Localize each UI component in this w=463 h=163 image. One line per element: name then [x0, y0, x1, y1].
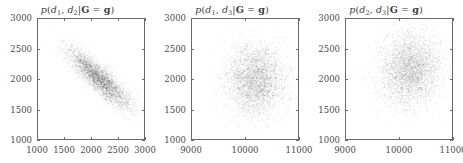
y-tick-mark	[450, 140, 453, 141]
y-axis-tick-label: 2500	[309, 44, 340, 54]
y-tick-mark	[450, 110, 453, 111]
density-cloud-d1-d3	[192, 19, 298, 139]
title-token-eq: =	[89, 4, 103, 15]
title-token-close: )	[110, 4, 114, 15]
x-tick-mark	[91, 18, 92, 21]
y-tick-mark	[142, 49, 145, 50]
y-axis-tick-label: 2000	[309, 74, 340, 84]
title-token-cond-rhs: g	[412, 4, 419, 15]
x-axis-tick-label: 1500	[53, 145, 75, 155]
y-axis-tick-label: 2500	[0, 44, 32, 54]
y-tick-mark	[142, 110, 145, 111]
x-tick-mark	[299, 18, 300, 21]
x-axis-tick-label: 11000	[439, 145, 463, 155]
y-axis-tick-label: 1000	[155, 135, 186, 145]
title-token-eq: =	[244, 4, 258, 15]
title-token-var1: d	[51, 4, 57, 15]
y-tick-mark	[142, 79, 145, 80]
x-axis-tick-label: 10000	[231, 145, 258, 155]
y-tick-mark	[37, 79, 40, 80]
title-token-var2: d	[67, 4, 73, 15]
x-tick-mark	[299, 137, 300, 140]
title-token-var2-sub: 3	[228, 9, 232, 17]
x-tick-mark	[37, 18, 38, 21]
y-axis-tick-label: 3000	[0, 13, 32, 23]
title-token-var1-sub: 1	[211, 9, 215, 17]
title-token-var1-sub: 1	[57, 9, 61, 17]
y-tick-mark	[191, 49, 194, 50]
y-tick-mark	[345, 79, 348, 80]
title-token-eq: =	[398, 4, 412, 15]
x-tick-mark	[37, 137, 38, 140]
x-axis-tick-label: 3000	[134, 145, 156, 155]
x-axis-tick-label: 9000	[334, 145, 356, 155]
x-axis-tick-label: 1000	[26, 145, 48, 155]
y-axis-tick-label: 3000	[155, 13, 186, 23]
x-axis-tick-label: 10000	[385, 145, 412, 155]
x-tick-mark	[245, 137, 246, 140]
x-axis-tick-label: 2500	[107, 145, 129, 155]
figure-three-panel-density-plots: p(d1, d2|G = g) 100015002000250030001000…	[0, 0, 463, 163]
panel-d1-d2: p(d1, d2|G = g) 100015002000250030001000…	[0, 0, 155, 163]
title-token-close: )	[265, 4, 269, 15]
x-tick-mark	[118, 18, 119, 21]
x-tick-mark	[245, 18, 246, 21]
y-tick-mark	[191, 110, 194, 111]
title-token-var2-sub: 2	[74, 9, 78, 17]
y-tick-mark	[191, 79, 194, 80]
panel-d2-d3: p(d2, d3|G = g) 100015002000250030009000…	[309, 0, 463, 163]
y-axis-tick-label: 2000	[155, 74, 186, 84]
y-tick-mark	[296, 140, 299, 141]
y-axis-tick-label: 1500	[0, 105, 32, 115]
y-axis-tick-label: 1500	[309, 105, 340, 115]
x-tick-mark	[118, 137, 119, 140]
y-tick-mark	[142, 140, 145, 141]
y-tick-mark	[191, 140, 194, 141]
title-token-var1-sub: 2	[365, 9, 369, 17]
x-tick-mark	[64, 18, 65, 21]
y-axis-tick-label: 1000	[0, 135, 32, 145]
x-tick-mark	[399, 18, 400, 21]
x-tick-mark	[345, 137, 346, 140]
title-token-var2-sub: 3	[382, 9, 386, 17]
y-tick-mark	[345, 110, 348, 111]
x-tick-mark	[453, 18, 454, 21]
plot-area-d2-d3	[345, 18, 453, 140]
x-tick-mark	[91, 137, 92, 140]
y-axis-tick-label: 1500	[155, 105, 186, 115]
y-tick-mark	[450, 79, 453, 80]
x-axis-tick-label: 9000	[180, 145, 202, 155]
panel-d1-d3: p(d1, d3|G = g) 100015002000250030009000…	[155, 0, 309, 163]
x-tick-mark	[145, 18, 146, 21]
x-tick-mark	[453, 137, 454, 140]
y-axis-tick-label: 2000	[0, 74, 32, 84]
y-tick-mark	[296, 110, 299, 111]
plot-area-d1-d3	[191, 18, 299, 140]
x-tick-mark	[191, 18, 192, 21]
density-cloud-d1-d2	[38, 19, 144, 139]
y-tick-mark	[345, 140, 348, 141]
y-tick-mark	[345, 49, 348, 50]
y-tick-mark	[37, 140, 40, 141]
x-tick-mark	[345, 18, 346, 21]
y-tick-mark	[37, 110, 40, 111]
plot-area-d1-d2	[37, 18, 145, 140]
x-axis-tick-label: 2000	[80, 145, 102, 155]
density-cloud-d2-d3	[346, 19, 452, 139]
title-token-cond-rhs: g	[258, 4, 265, 15]
y-tick-mark	[296, 49, 299, 50]
title-token-cond-lhs: G	[236, 4, 244, 15]
y-tick-mark	[37, 49, 40, 50]
y-tick-mark	[296, 79, 299, 80]
title-token-close: )	[419, 4, 423, 15]
x-tick-mark	[191, 137, 192, 140]
y-tick-mark	[450, 49, 453, 50]
y-axis-tick-label: 1000	[309, 135, 340, 145]
y-axis-tick-label: 3000	[309, 13, 340, 23]
x-tick-mark	[399, 137, 400, 140]
x-tick-mark	[64, 137, 65, 140]
y-axis-tick-label: 2500	[155, 44, 186, 54]
title-token-cond-lhs: G	[390, 4, 398, 15]
x-tick-mark	[145, 137, 146, 140]
